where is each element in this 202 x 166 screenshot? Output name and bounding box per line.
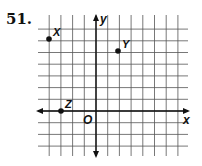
svg-text:Z: Z bbox=[64, 98, 73, 110]
origin-label: O bbox=[83, 113, 93, 127]
svg-text:X: X bbox=[52, 26, 61, 38]
x-axis-label: x bbox=[182, 113, 191, 127]
y-axis bbox=[93, 14, 99, 158]
y-axis-down-arrow-icon bbox=[93, 151, 99, 158]
point-x: X bbox=[46, 26, 61, 42]
grid-lines bbox=[38, 15, 188, 156]
y-axis-up-arrow-icon bbox=[93, 14, 99, 21]
point-y: Y bbox=[115, 38, 131, 54]
y-axis-label: y bbox=[99, 12, 108, 26]
svg-text:Y: Y bbox=[122, 38, 131, 50]
x-axis-left-arrow-icon bbox=[36, 108, 43, 114]
coordinate-grid: y x O X Y Z bbox=[0, 0, 202, 166]
